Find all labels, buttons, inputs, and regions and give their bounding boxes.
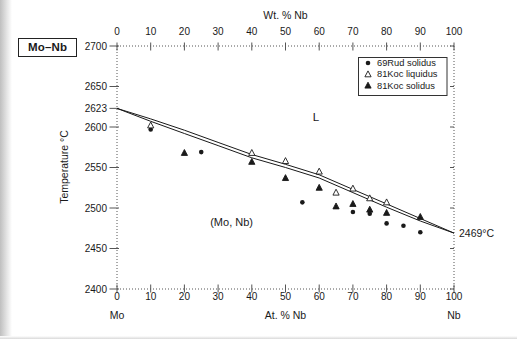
phase-diagram-svg: 0102030405060708090100010203040506070809… (0, 0, 517, 339)
x-axis-tick-label: 70 (347, 291, 359, 302)
top-axis-tick-label: 0 (114, 26, 120, 37)
top-axis-tick-label: 70 (347, 26, 359, 37)
top-axis-tick-label: 60 (314, 26, 326, 37)
x-axis-tick-label: 10 (145, 291, 157, 302)
legend-label: 69Rud solidus (377, 58, 436, 68)
top-axis-tick-label: 20 (179, 26, 191, 37)
data-point-filled-triangle (384, 209, 390, 215)
data-point-open-triangle (282, 158, 288, 164)
y-axis-tick-label: 2623 (85, 103, 108, 114)
top-axis-tick-label: 100 (446, 26, 463, 37)
data-point-filled-circle (384, 221, 389, 226)
phase-diagram-chart: 0102030405060708090100010203040506070809… (0, 0, 517, 339)
x-axis-tick-label: 60 (314, 291, 326, 302)
annotation: 2469°C (459, 227, 495, 239)
data-point-open-triangle (249, 150, 255, 156)
y-axis-tick-label: 2650 (85, 81, 108, 92)
x-axis-tick-label: 40 (246, 291, 258, 302)
legend-label: 81Koc solidus (377, 81, 435, 91)
top-axis-tick-label: 30 (213, 26, 225, 37)
data-point-filled-triangle (316, 184, 322, 190)
x-axis-tick-label: 30 (213, 291, 225, 302)
data-point-filled-triangle (367, 206, 373, 212)
y-axis-tick-label: 2700 (85, 41, 108, 52)
data-point-open-triangle (148, 122, 154, 128)
data-point-filled-circle (418, 230, 423, 235)
solidus-line (117, 108, 454, 233)
data-point-filled-triangle (350, 201, 356, 207)
data-point-filled-circle (300, 200, 305, 205)
y-axis-tick-label: 2400 (85, 284, 108, 295)
data-point-filled-circle (401, 224, 406, 229)
data-point-open-triangle (384, 199, 390, 205)
x-axis-tick-label: 90 (415, 291, 427, 302)
legend-label: 81Koc liquidus (377, 69, 438, 79)
data-point-filled-triangle (333, 203, 339, 209)
top-axis-tick-label: 90 (415, 26, 427, 37)
y-axis-tick-label: 2550 (85, 162, 108, 173)
y-axis-tick-label: 2500 (85, 203, 108, 214)
x-axis-end-label-nb: Nb (447, 309, 461, 321)
x-axis-tick-label: 50 (280, 291, 292, 302)
x-axis-tick-label: 20 (179, 291, 191, 302)
data-point-filled-triangle (417, 214, 423, 220)
x-axis-end-label-mo: Mo (110, 309, 125, 321)
y-axis-tick-label: 2600 (85, 122, 108, 133)
top-axis-title: Wt. % Nb (263, 9, 307, 21)
data-point-filled-triangle (181, 150, 187, 156)
top-axis-tick-label: 80 (381, 26, 393, 37)
annotation: (Mo, Nb) (210, 216, 253, 228)
x-axis-tick-label: 0 (114, 291, 120, 302)
top-axis-tick-label: 40 (246, 26, 258, 37)
y-axis-tick-label: 2450 (85, 243, 108, 254)
data-point-filled-triangle (249, 158, 255, 164)
data-point-open-triangle (333, 189, 339, 195)
x-axis-tick-label: 80 (381, 291, 393, 302)
data-point-filled-triangle (282, 175, 288, 181)
x-axis-tick-label: 100 (446, 291, 463, 302)
bottom-axis-title: At. % Nb (265, 309, 307, 321)
data-point-filled-circle (351, 210, 356, 215)
legend-marker-filled-circle (366, 61, 371, 66)
data-point-filled-circle (199, 150, 204, 155)
data-point-open-triangle (316, 168, 322, 174)
top-axis-tick-label: 50 (280, 26, 292, 37)
y-axis-title: Temperature °C (58, 130, 70, 204)
annotation: L (313, 111, 320, 123)
top-axis-tick-label: 10 (145, 26, 157, 37)
